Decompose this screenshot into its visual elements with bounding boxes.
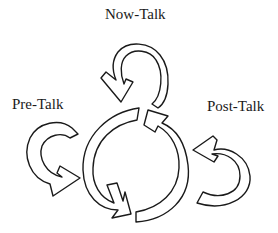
now-talk-loop-arrow-icon (101, 44, 168, 108)
post-talk-loop-arrow-icon (193, 136, 250, 206)
central-cycle-arrows-icon (83, 108, 188, 222)
cycle-diagram (0, 0, 278, 233)
pre-talk-loop-arrow-icon (27, 123, 80, 196)
